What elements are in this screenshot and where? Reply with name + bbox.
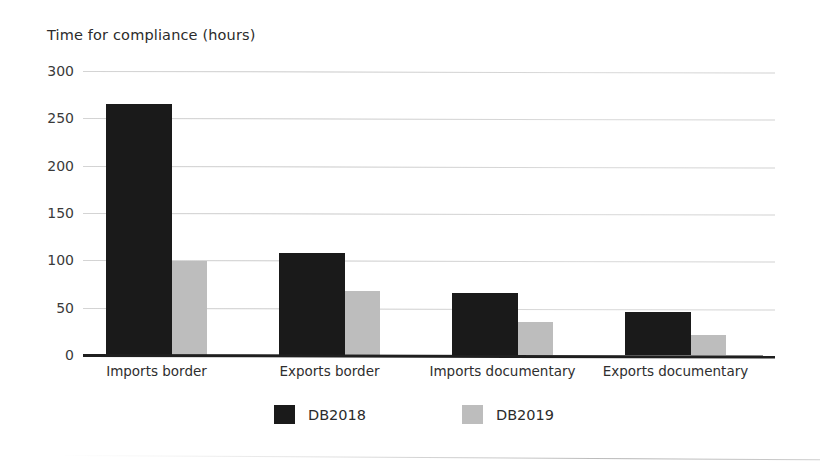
chart-legend: DB2018DB2019 [0, 405, 828, 424]
bar-chart: Time for compliance (hours) 050100150200… [0, 0, 828, 468]
plot-area [83, 71, 775, 355]
bar-db2019-exports-border [345, 291, 380, 355]
legend-label-db2018: DB2018 [308, 407, 366, 423]
bar-db2019-exports-documentary [691, 335, 726, 355]
y-tick-label-200: 200 [47, 158, 74, 174]
bar-db2019-imports-documentary [518, 322, 553, 355]
y-tick-label-250: 250 [47, 110, 74, 126]
legend-swatch-db2018 [274, 405, 295, 424]
bar-db2018-exports-documentary [625, 312, 691, 355]
category-label-imports-border: Imports border [106, 363, 207, 379]
bar-db2018-imports-border [106, 104, 172, 355]
y-tick-label-0: 0 [65, 347, 74, 363]
bar-db2018-exports-border [279, 253, 345, 355]
y-tick-label-100: 100 [47, 252, 74, 268]
bar-db2018-imports-documentary [452, 293, 518, 355]
legend-swatch-db2019 [462, 405, 483, 424]
page-bottom-rule [60, 455, 820, 460]
y-axis-tick-labels: 050100150200250300 [38, 71, 74, 355]
y-tick-label-50: 50 [56, 300, 74, 316]
category-label-imports-documentary: Imports documentary [429, 363, 575, 379]
chart-title: Time for compliance (hours) [47, 27, 256, 43]
category-label-exports-documentary: Exports documentary [603, 363, 748, 379]
y-tick-label-150: 150 [47, 205, 74, 221]
bar-groups [83, 71, 775, 355]
legend-item-db2019[interactable]: DB2019 [462, 405, 554, 424]
legend-item-db2018[interactable]: DB2018 [274, 405, 366, 424]
y-tick-label-300: 300 [47, 63, 74, 79]
x-axis-category-labels: Imports borderExports borderImports docu… [83, 363, 775, 389]
category-label-exports-border: Exports border [279, 363, 379, 379]
legend-label-db2019: DB2019 [496, 407, 554, 423]
bar-db2019-imports-border [172, 261, 207, 355]
x-axis-line [83, 354, 775, 358]
